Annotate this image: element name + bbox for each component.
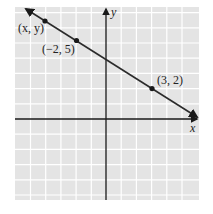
label-point-general: (x, y): [18, 21, 44, 35]
label-point-3-2: (3, 2): [157, 73, 183, 87]
point-3-2: [149, 86, 154, 91]
label-point-neg2-5: (−2, 5): [42, 42, 75, 56]
x-axis-label: x: [189, 121, 196, 135]
coordinate-plot: (x, y) (−2, 5) (3, 2) y x: [0, 0, 213, 214]
y-axis-label: y: [110, 5, 117, 19]
